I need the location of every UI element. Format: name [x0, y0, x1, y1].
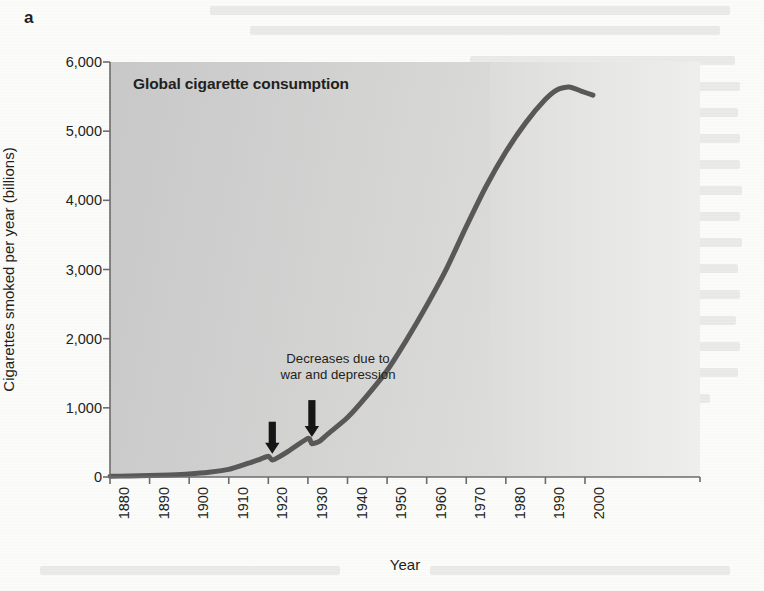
x-axis-ticks	[110, 477, 585, 484]
x-tick-label: 1940	[354, 487, 370, 519]
x-tick-label: 1980	[512, 487, 528, 519]
y-axis-ticks	[103, 62, 110, 477]
x-tick-label: 1920	[274, 487, 290, 519]
x-tick-label: 1950	[393, 487, 409, 519]
x-tick-label: 1960	[433, 487, 449, 519]
x-tick-label: 1990	[551, 487, 567, 519]
x-tick-label: 1930	[314, 487, 330, 519]
x-axis-title: Year	[110, 556, 700, 573]
x-tick-label: 1970	[472, 487, 488, 519]
x-tick-label: 1910	[235, 487, 251, 519]
x-tick-label: 1900	[195, 487, 211, 519]
x-tick-label: 2000	[591, 487, 607, 519]
axis-lines	[110, 62, 700, 482]
x-axis-tick-labels: 1880189019001910192019301940195019601970…	[110, 487, 700, 547]
figure-panel: a Cigarettes smoked per year (billions) …	[0, 0, 764, 591]
x-tick-label: 1890	[156, 487, 172, 519]
x-tick-label: 1880	[116, 487, 132, 519]
